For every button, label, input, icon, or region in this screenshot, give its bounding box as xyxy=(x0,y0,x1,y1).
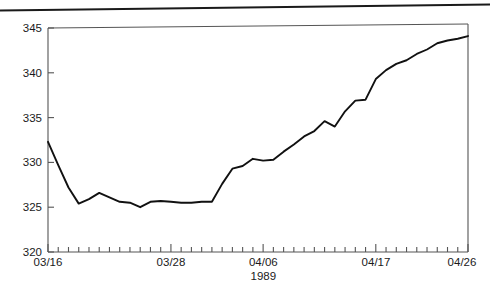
x-tick-label-21: 04/06 xyxy=(249,256,278,268)
x-tick-label-32: 04/17 xyxy=(362,256,391,268)
x-axis-title: 1989 xyxy=(251,270,277,282)
y-tick-label-335: 335 xyxy=(23,112,42,124)
axis-top xyxy=(48,24,468,28)
chart-figure: 320 325 330 335 340 345 03/16 03/28 04/0… xyxy=(0,0,490,296)
data-series-line xyxy=(48,36,468,207)
y-tick-label-325: 325 xyxy=(23,201,42,213)
x-tick-label-41: 04/26 xyxy=(448,256,477,268)
x-tick-label-12: 03/28 xyxy=(157,256,186,268)
x-axis-tick-labels: 03/16 03/28 04/06 04/17 04/26 xyxy=(34,256,477,268)
plot-frame xyxy=(48,24,468,252)
y-axis-ticks xyxy=(48,28,54,252)
y-tick-label-345: 345 xyxy=(23,22,42,34)
y-tick-label-340: 340 xyxy=(23,67,42,79)
x-axis-ticks xyxy=(48,244,468,252)
x-tick-label-0: 03/16 xyxy=(34,256,63,268)
y-tick-label-330: 330 xyxy=(23,156,42,168)
line-chart: 320 325 330 335 340 345 03/16 03/28 04/0… xyxy=(0,0,490,296)
y-axis-tick-labels: 320 325 330 335 340 345 xyxy=(23,22,42,258)
